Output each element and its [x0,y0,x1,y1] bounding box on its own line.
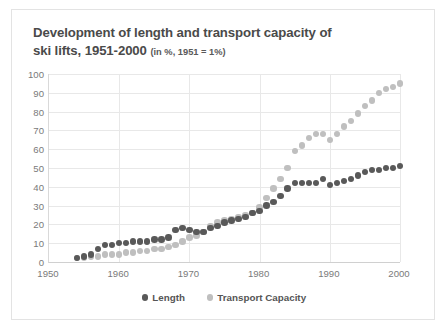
x-axis-tick-label: 1980 [236,268,282,279]
data-point [123,249,129,255]
data-point [383,86,389,92]
data-point [109,251,115,257]
y-axis-tick-label: 70 [14,125,44,136]
data-point [137,248,143,254]
data-point [151,236,157,242]
data-point [116,251,122,257]
data-point [130,249,136,255]
y-axis-labels: 0102030405060708090100 [12,74,44,263]
chart-plot-wrapper: 0102030405060708090100 19501960197019801… [12,10,436,321]
data-point [355,172,361,178]
data-point [292,148,298,154]
data-point [228,217,234,223]
x-axis-tick-label: 1950 [25,268,71,279]
y-axis-tick-label: 80 [14,106,44,117]
legend-label: Length [152,292,185,303]
gridline-horizontal [49,112,400,113]
data-point [144,238,150,244]
data-point [383,165,389,171]
x-axis-tick-label: 1960 [95,268,141,279]
data-point [130,238,136,244]
data-point [95,253,101,259]
data-point [390,165,396,171]
data-point [249,210,255,216]
chart-legend: LengthTransport Capacity [48,292,400,303]
data-point [334,131,340,137]
y-axis-tick-label: 0 [14,257,44,268]
data-point [74,255,80,261]
chart-plot-area [48,74,400,263]
gridline-horizontal [49,187,400,188]
data-point [334,180,340,186]
data-point [207,225,213,231]
data-point [348,176,354,182]
data-point [221,219,227,225]
gridline-vertical [330,74,331,262]
data-point [186,227,192,233]
data-point [186,234,192,240]
data-point [299,180,305,186]
data-point [235,216,241,222]
y-axis-tick-label: 60 [14,144,44,155]
data-point [320,131,326,137]
legend-label: Transport Capacity [217,292,306,303]
data-point [256,208,262,214]
y-axis-tick-label: 100 [14,69,44,80]
data-point [179,238,185,244]
data-point [109,242,115,248]
legend-marker-icon [142,294,148,300]
data-point [306,135,312,141]
data-point [376,167,382,173]
data-point [320,176,326,182]
data-point [137,238,143,244]
data-point [193,229,199,235]
data-point [376,90,382,96]
gridline-vertical [119,74,120,262]
data-point [292,180,298,186]
gridline-horizontal [49,93,400,94]
data-point [390,84,396,90]
y-axis-tick-label: 50 [14,163,44,174]
data-point [172,227,178,233]
data-point [277,193,283,199]
data-point [179,225,185,231]
data-point [200,229,206,235]
data-point [144,248,150,254]
y-axis-tick-label: 20 [14,219,44,230]
data-point [172,242,178,248]
x-axis-tick-label: 1970 [165,268,211,279]
data-point [277,176,283,182]
data-point [369,97,375,103]
data-point [102,242,108,248]
data-point [95,246,101,252]
data-point [355,110,361,116]
data-point [306,180,312,186]
data-point [151,246,157,252]
legend-item: Length [142,292,185,303]
gridline-horizontal [49,206,400,207]
data-point [116,240,122,246]
data-point [270,199,276,205]
data-point [263,202,269,208]
chart-card: Development of length and transport capa… [11,9,435,320]
data-point [369,167,375,173]
data-point [214,223,220,229]
data-point [165,244,171,250]
data-point [341,178,347,184]
gridline-vertical [260,74,261,262]
data-point [397,163,403,169]
legend-item: Transport Capacity [207,292,306,303]
data-point [102,251,108,257]
x-axis-tick-label: 2000 [376,268,422,279]
data-point [362,169,368,175]
data-point [165,234,171,240]
data-point [270,185,276,191]
gridline-horizontal [49,149,400,150]
y-axis-tick-label: 40 [14,181,44,192]
data-point [327,137,333,143]
data-point [327,182,333,188]
data-point [123,240,129,246]
data-point [397,80,403,86]
gridline-horizontal [49,130,400,131]
data-point [284,185,290,191]
